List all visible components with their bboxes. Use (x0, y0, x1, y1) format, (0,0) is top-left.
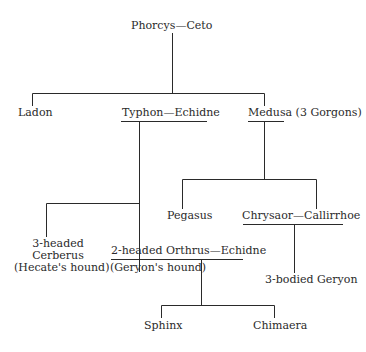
node-medusa: Medusa (3 Gorgons) (248, 107, 362, 119)
node-ladon: Ladon (18, 107, 53, 119)
family-tree-diagram: Phorcys—Ceto Ladon Typhon—Echidne Medusa… (0, 0, 366, 352)
node-chimaera: Chimaera (253, 320, 307, 332)
cerberus-line-3: (Hecate's hound) (14, 262, 102, 274)
node-orthrus-echidne: 2-headed Orthrus—Echidne (111, 245, 266, 257)
node-typhon-echidne: Typhon—Echidne (122, 107, 220, 119)
node-sphinx: Sphinx (144, 320, 182, 332)
node-chrysaor-callirrhoe: Chrysaor—Callirrhoe (242, 210, 360, 222)
node-pegasus: Pegasus (167, 210, 212, 222)
node-orthrus-note: (Geryon's hound) (110, 262, 206, 274)
node-geryon: 3-bodied Geryon (265, 274, 357, 286)
node-phorcys-ceto: Phorcys—Ceto (131, 20, 212, 32)
connector-lines (0, 0, 366, 352)
node-cerberus: 3-headed Cerberus (Hecate's hound) (14, 238, 102, 274)
